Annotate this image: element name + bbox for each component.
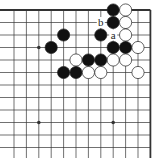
move-label-b: b — [98, 16, 104, 28]
white-stone — [70, 54, 82, 66]
white-stone — [107, 54, 119, 66]
black-stone — [107, 41, 119, 53]
black-stone — [107, 16, 119, 28]
black-stone — [45, 41, 57, 53]
white-stone — [95, 66, 107, 78]
white-stone — [120, 29, 132, 41]
stones-layer — [45, 4, 144, 79]
white-stone — [82, 66, 94, 78]
black-stone — [120, 41, 132, 53]
black-stone — [107, 4, 119, 16]
white-stone — [120, 4, 132, 16]
star-point-icon — [37, 46, 41, 50]
black-stone — [58, 29, 70, 41]
black-stone — [95, 54, 107, 66]
move-label-a: a — [111, 29, 116, 41]
star-point-icon — [37, 121, 41, 125]
white-stone — [120, 54, 132, 66]
black-stone — [95, 29, 107, 41]
white-stone — [120, 16, 132, 28]
go-board-diagram: ba — [0, 0, 155, 158]
black-stone — [82, 54, 94, 66]
black-stone — [58, 66, 70, 78]
white-stone — [132, 66, 144, 78]
star-point-icon — [111, 121, 115, 125]
white-stone — [132, 41, 144, 53]
black-stone — [70, 66, 82, 78]
